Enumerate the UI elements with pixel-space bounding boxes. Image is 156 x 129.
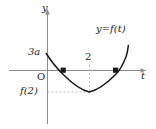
y-axis-label: y [42, 3, 48, 13]
function-graph-figure: y t 3a O 2 f(2) y=f(t) [0, 0, 156, 129]
vertex-x-label: 2 [85, 52, 91, 62]
right-root-marker [113, 68, 118, 73]
vertex-guide-lines [48, 65, 91, 92]
x-axis-label: t [141, 71, 145, 81]
y-intercept-label: 3a [28, 47, 40, 57]
x-axis [9, 68, 146, 73]
graph-canvas [0, 0, 156, 129]
curve-equation-label: y=f(t) [96, 24, 126, 34]
y-axis [45, 9, 50, 124]
left-root-marker [61, 68, 66, 73]
vertex-y-label: f(2) [20, 86, 38, 96]
origin-label: O [37, 72, 45, 82]
